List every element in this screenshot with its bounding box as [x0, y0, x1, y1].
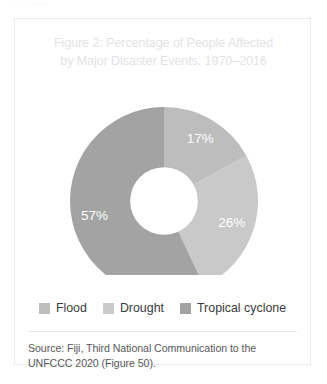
source-note: Source: Fiji, Third National Communicati… [28, 341, 302, 370]
figure-card: Figure 2: Percentage of People Affected … [14, 18, 311, 365]
chart-legend: Flood Drought Tropical cyclone [15, 301, 310, 315]
legend-item-tropical-cyclone[interactable]: Tropical cyclone [180, 301, 286, 315]
legend-label-tropical-cyclone: Tropical cyclone [197, 301, 286, 315]
legend-label-drought: Drought [120, 301, 164, 315]
legend-item-flood[interactable]: Flood [39, 301, 87, 315]
pie-label-tropical-cyclone: 57% [81, 208, 108, 223]
legend-swatch-icon-tropical-cyclone [180, 303, 191, 314]
pie-label-flood: 17% [187, 131, 214, 146]
donut-chart-svg: 17% 26% 57% [15, 75, 310, 275]
legend-swatch-icon-drought [103, 303, 114, 314]
figure-title-line-1: Figure 2: Percentage of People Affected [27, 34, 300, 52]
pie-label-drought: 26% [218, 215, 245, 230]
legend-item-drought[interactable]: Drought [103, 301, 164, 315]
legend-swatch-icon-flood [39, 303, 50, 314]
figure-title: Figure 2: Percentage of People Affected … [27, 34, 300, 70]
donut-chart: 17% 26% 57% [15, 75, 310, 275]
figure-screenshot: · ·· ··· ·· Figure 2: Percentage of Peop… [0, 0, 327, 384]
source-note-line-2: 2020 (Figure 50). [75, 357, 155, 369]
legend-label-flood: Flood [56, 301, 87, 315]
source-divider [28, 331, 297, 332]
figure-title-line-2: by Major Disaster Events, 1970–2016 [27, 52, 300, 70]
cut-off-top-text: · ·· ··· ·· [14, 0, 204, 5]
donut-hole [130, 167, 198, 235]
